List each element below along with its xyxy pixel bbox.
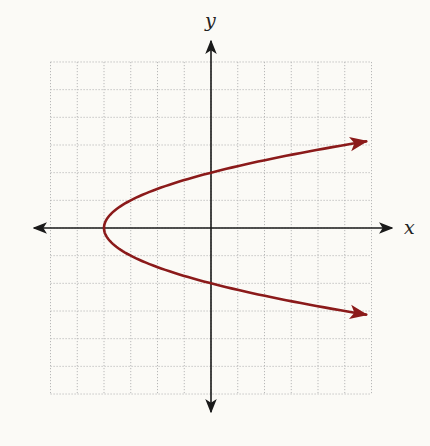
- parabola-graph: x y: [0, 0, 430, 446]
- y-axis-label: y: [204, 9, 216, 31]
- x-axis-label: x: [404, 216, 415, 238]
